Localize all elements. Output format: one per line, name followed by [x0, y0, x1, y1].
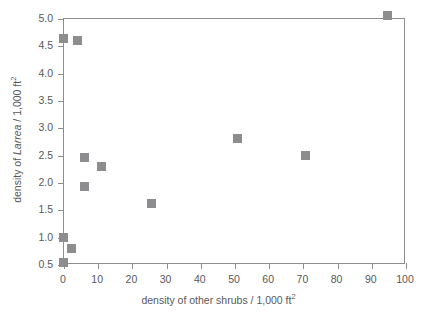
y-axis-label-prefix: density of — [11, 155, 23, 203]
y-axis-tick — [58, 19, 64, 20]
x-axis-tick — [64, 263, 65, 269]
y-axis-tick-label: 3.0 — [38, 122, 53, 133]
y-axis-label: density of Larrea / 1,000 ft2 — [9, 40, 23, 240]
x-axis-tick-label: 100 — [380, 274, 430, 285]
x-axis-tick — [406, 263, 407, 269]
y-axis-label-taxon: Larrea — [11, 125, 23, 155]
y-axis-tick — [58, 128, 64, 129]
x-axis-label-text: density of other shrubs / 1,000 ft — [141, 294, 291, 306]
x-axis-tick — [303, 263, 304, 269]
x-axis-tick — [201, 263, 202, 269]
y-axis-label-suffix: / 1,000 ft — [11, 81, 23, 125]
y-axis-tick — [58, 156, 64, 157]
y-axis-tick-label: 4.5 — [38, 40, 53, 51]
y-axis-tick-label: 1.0 — [38, 232, 53, 243]
y-axis-tick — [58, 210, 64, 211]
x-axis-tick — [269, 263, 270, 269]
y-axis-tick — [58, 46, 64, 47]
y-axis-tick-label: 5.0 — [38, 13, 53, 24]
x-axis-tick — [338, 263, 339, 269]
y-axis-label-superscript: 2 — [9, 77, 18, 81]
y-axis-tick-label: 1.5 — [38, 204, 53, 215]
x-axis-label: density of other shrubs / 1,000 ft2 — [0, 292, 437, 306]
x-axis-tick — [167, 263, 168, 269]
y-axis-tick-label: 2.0 — [38, 177, 53, 188]
y-axis-tick — [58, 101, 64, 102]
y-axis-tick-label: 0.5 — [38, 259, 53, 270]
x-axis-label-superscript: 2 — [291, 292, 295, 301]
y-axis-tick-label: 4.0 — [38, 68, 53, 79]
y-axis-tick-label: 3.5 — [38, 95, 53, 106]
y-axis-tick — [58, 183, 64, 184]
x-axis-tick — [98, 263, 99, 269]
plot-area — [63, 18, 405, 264]
y-axis-tick — [58, 238, 64, 239]
scatter-chart: density of other shrubs / 1,000 ft2 dens… — [0, 0, 437, 317]
x-axis-tick — [372, 263, 373, 269]
y-axis-tick-label: 2.5 — [38, 150, 53, 161]
x-axis-tick — [235, 263, 236, 269]
y-axis-tick — [58, 74, 64, 75]
x-axis-tick — [132, 263, 133, 269]
